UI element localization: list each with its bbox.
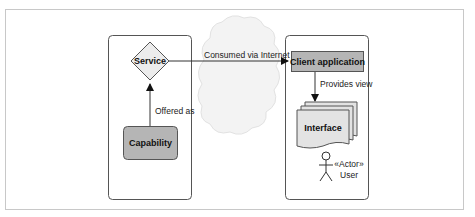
service-node[interactable]: Service (131, 42, 169, 80)
svg-text:Capability: Capability (129, 138, 172, 148)
edge-label-consumed-via-internet: Consumed via Internet (204, 50, 290, 60)
user-stereotype: «Actor» (334, 159, 364, 169)
capability-node[interactable]: Capability (124, 127, 178, 160)
diagram-canvas: Consumed via Internet Service Offered as… (0, 0, 475, 217)
svg-text:Client application: Client application (290, 57, 365, 67)
svg-text:Service: Service (134, 56, 166, 66)
interface-node[interactable]: Interface (297, 102, 357, 148)
internet-cloud-icon (198, 16, 280, 135)
edge-label-provides-view: Provides view (320, 79, 373, 89)
svg-text:Interface: Interface (304, 123, 342, 133)
user-actor-icon (319, 152, 333, 181)
edge-label-offered-as: Offered as (155, 106, 195, 116)
client-application-node[interactable]: Client application (290, 52, 365, 72)
user-label: User (340, 170, 358, 180)
